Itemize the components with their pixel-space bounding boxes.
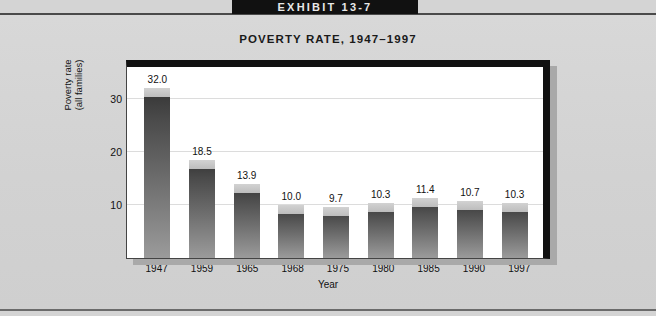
y-axis-tick-30: 30 xyxy=(110,93,122,105)
exhibit-banner: EXHIBIT 13-7 xyxy=(232,0,418,14)
y-axis-tick-10: 10 xyxy=(110,199,122,211)
bar-cap-1997 xyxy=(502,203,528,212)
bar-1990[interactable] xyxy=(457,201,483,258)
bar-value-label-1985: 11.4 xyxy=(416,184,435,195)
y-axis-tick-20: 20 xyxy=(110,146,122,158)
chart-frame: 32.018.513.910.09.710.311.410.710.3 xyxy=(126,60,550,259)
bar-cap-1980 xyxy=(368,203,394,212)
bar-value-label-1947: 32.0 xyxy=(148,74,167,85)
bar-cap-1990 xyxy=(457,201,483,210)
bar-slot-1980[interactable]: 10.3 xyxy=(368,67,394,258)
bar-value-label-1975: 9.7 xyxy=(329,193,343,204)
bar-1965[interactable] xyxy=(234,184,260,258)
bar-value-label-1990: 10.7 xyxy=(460,187,479,198)
bar-value-label-1965: 13.9 xyxy=(237,170,256,181)
bar-value-label-1968: 10.0 xyxy=(282,191,301,202)
y-axis-labels: 102030 xyxy=(96,60,122,259)
y-axis-title-line2: (all families) xyxy=(73,40,84,130)
y-axis-title: Poverty rate (all families) xyxy=(62,40,84,130)
bar-1947[interactable] xyxy=(144,88,170,258)
bar-slot-1959[interactable]: 18.5 xyxy=(189,67,215,258)
bar-1975[interactable] xyxy=(323,207,349,258)
bar-slot-1947[interactable]: 32.0 xyxy=(144,67,170,258)
bar-cap-1965 xyxy=(234,184,260,193)
bar-1997[interactable] xyxy=(502,203,528,258)
bar-slot-1975[interactable]: 9.7 xyxy=(323,67,349,258)
bar-1959[interactable] xyxy=(189,160,215,258)
bars-layer: 32.018.513.910.09.710.311.410.710.3 xyxy=(135,67,537,258)
bar-1980[interactable] xyxy=(368,203,394,258)
bar-cap-1968 xyxy=(278,205,304,214)
bar-value-label-1959: 18.5 xyxy=(192,146,211,157)
bar-1985[interactable] xyxy=(412,198,438,258)
bar-cap-1975 xyxy=(323,207,349,216)
x-axis-labels: 194719591965196819751980198519901997 xyxy=(134,263,542,279)
bar-cap-1985 xyxy=(412,198,438,207)
bar-slot-1997[interactable]: 10.3 xyxy=(502,67,528,258)
bar-slot-1990[interactable]: 10.7 xyxy=(457,67,483,258)
exhibit-label: EXHIBIT 13-7 xyxy=(278,2,373,14)
x-axis-title: Year xyxy=(0,279,656,290)
bar-cap-1959 xyxy=(189,160,215,169)
bar-cap-1947 xyxy=(144,88,170,97)
bar-value-label-1980: 10.3 xyxy=(371,189,390,200)
bar-1968[interactable] xyxy=(278,205,304,258)
bar-slot-1965[interactable]: 13.9 xyxy=(234,67,260,258)
y-axis-title-line1: Poverty rate xyxy=(62,40,73,130)
plot-area: 32.018.513.910.09.710.311.410.710.3 xyxy=(127,67,543,258)
bar-value-label-1997: 10.3 xyxy=(505,189,524,200)
bar-slot-1985[interactable]: 11.4 xyxy=(412,67,438,258)
page-bottom-rule xyxy=(0,309,656,311)
chart-title: POVERTY RATE, 1947–1997 xyxy=(0,33,656,45)
bar-slot-1968[interactable]: 10.0 xyxy=(278,67,304,258)
